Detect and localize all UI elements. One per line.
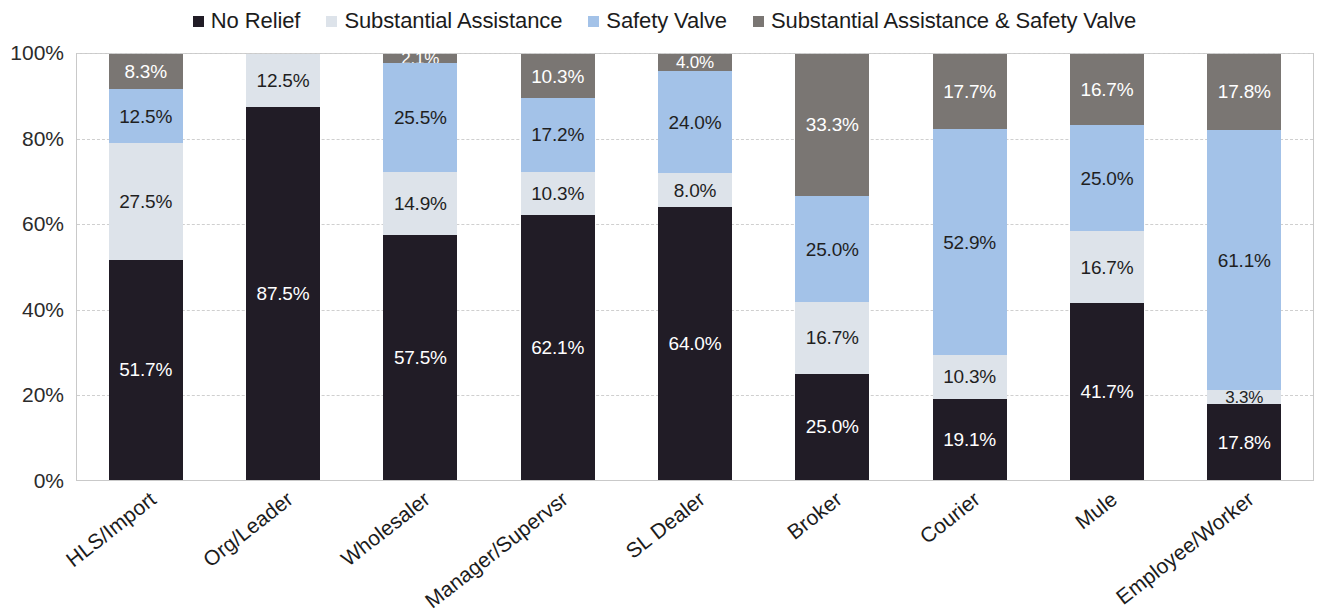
bar-segment[interactable]: 62.1% [521, 215, 595, 480]
square-marker-icon [326, 16, 337, 27]
bar-segment[interactable]: 19.1% [933, 399, 1007, 480]
bar-segment-value-label: 17.8% [1218, 82, 1271, 101]
bar-segment[interactable]: 52.9% [933, 129, 1007, 354]
x-axis-tick: HLS/Import [77, 481, 214, 591]
stacked-bar[interactable]: 17.7%52.9%10.3%19.1% [933, 54, 1007, 480]
y-axis-tick-label: 40% [22, 298, 64, 322]
bar-segment[interactable]: 25.5% [383, 63, 457, 172]
legend-item-label: Substantial Assistance & Safety Valve [771, 10, 1136, 32]
bar-segment[interactable]: 25.0% [1070, 125, 1144, 231]
bar-segment[interactable]: 14.9% [383, 172, 457, 235]
y-axis-tick-label: 0% [34, 469, 64, 493]
bar-segment-value-label: 17.2% [531, 125, 584, 144]
x-axis-tick: Broker [764, 481, 901, 591]
bar-segment[interactable]: 17.8% [1207, 54, 1281, 130]
bar-group: 33.3%25.0%16.7%25.0% [764, 54, 901, 480]
bar-segment-value-label: 19.1% [943, 430, 996, 449]
bar-segment-value-label: 62.1% [531, 338, 584, 357]
x-axis-tick-label: SL Dealer [621, 487, 709, 563]
bar-segment[interactable]: 2.1% [383, 54, 457, 63]
stacked-bar[interactable]: 33.3%25.0%16.7%25.0% [795, 54, 869, 480]
stacked-bar[interactable]: 2.1%25.5%14.9%57.5% [383, 54, 457, 480]
bar-segment[interactable]: 12.5% [246, 54, 320, 107]
square-marker-icon [588, 16, 599, 27]
bar-segment-value-label: 12.5% [257, 71, 310, 90]
bar-segment[interactable]: 12.5% [109, 89, 183, 142]
bar-segment[interactable]: 8.3% [109, 54, 183, 89]
bar-segment-value-label: 17.8% [1218, 433, 1271, 452]
bar-segment[interactable]: 64.0% [658, 207, 732, 480]
bar-segment-value-label: 10.3% [943, 367, 996, 386]
y-axis-tick-label: 60% [22, 212, 64, 236]
bar-segment-value-label: 52.9% [943, 233, 996, 252]
legend-item[interactable]: Substantial Assistance & Safety Valve [753, 10, 1136, 32]
bar-segment-value-label: 64.0% [669, 334, 722, 353]
stacked-bar[interactable]: 16.7%25.0%16.7%41.7% [1070, 54, 1144, 480]
bar-segment-value-label: 10.3% [531, 184, 584, 203]
bar-segment[interactable]: 27.5% [109, 143, 183, 260]
bar-series-container: 8.3%12.5%27.5%51.7%12.5%87.5%2.1%25.5%14… [77, 54, 1313, 480]
bar-segment[interactable]: 16.7% [795, 302, 869, 373]
x-axis-tick-label: Broker [783, 487, 847, 544]
bar-segment-value-label: 17.7% [943, 82, 996, 101]
bar-segment-value-label: 27.5% [119, 192, 172, 211]
stacked-bar[interactable]: 8.3%12.5%27.5%51.7% [109, 54, 183, 480]
bar-segment[interactable]: 16.7% [1070, 231, 1144, 302]
x-axis: HLS/ImportOrg/LeaderWholesalerManager/Su… [77, 481, 1313, 591]
x-axis-tick-label: Mule [1071, 487, 1122, 534]
x-axis-tick: Courier [901, 481, 1038, 591]
stacked-bar[interactable]: 10.3%17.2%10.3%62.1% [521, 54, 595, 480]
bar-group: 12.5%87.5% [214, 54, 351, 480]
stacked-bar[interactable]: 17.8%61.1%3.3%17.8% [1207, 54, 1281, 480]
stacked-bar[interactable]: 4.0%24.0%8.0%64.0% [658, 54, 732, 480]
bar-segment[interactable]: 10.3% [521, 172, 595, 216]
bar-segment-value-label: 8.3% [124, 62, 167, 81]
bar-segment-value-label: 12.5% [119, 107, 172, 126]
bar-segment-value-label: 25.0% [1081, 169, 1134, 188]
bar-group: 2.1%25.5%14.9%57.5% [352, 54, 489, 480]
bar-segment-value-label: 8.0% [674, 181, 717, 200]
bar-segment[interactable]: 41.7% [1070, 303, 1144, 480]
bar-segment[interactable]: 17.2% [521, 98, 595, 171]
y-axis: 0%20%40%60%80%100% [0, 53, 70, 481]
bar-segment[interactable]: 10.3% [933, 355, 1007, 399]
bar-segment-value-label: 14.9% [394, 194, 447, 213]
bar-group: 4.0%24.0%8.0%64.0% [626, 54, 763, 480]
legend-item[interactable]: Safety Valve [588, 10, 727, 32]
bar-group: 10.3%17.2%10.3%62.1% [489, 54, 626, 480]
x-axis-tick: Manager/Supervsr [489, 481, 626, 591]
bar-segment[interactable]: 10.3% [521, 54, 595, 98]
bar-segment[interactable]: 17.8% [1207, 404, 1281, 480]
bar-segment[interactable]: 17.7% [933, 54, 1007, 129]
x-axis-tick-label: Courier [915, 487, 985, 549]
bar-segment[interactable]: 8.0% [658, 173, 732, 207]
x-axis-tick: SL Dealer [626, 481, 763, 591]
bar-segment[interactable]: 57.5% [383, 235, 457, 480]
stacked-bar[interactable]: 12.5%87.5% [246, 54, 320, 480]
bar-segment[interactable]: 61.1% [1207, 130, 1281, 390]
bar-segment-value-label: 4.0% [676, 53, 714, 72]
bar-segment[interactable]: 25.0% [795, 196, 869, 303]
square-marker-icon [753, 16, 764, 27]
legend-item[interactable]: Substantial Assistance [326, 10, 562, 32]
bar-segment[interactable]: 16.7% [1070, 54, 1144, 125]
x-axis-tick-label: Wholesaler [337, 487, 435, 571]
bar-segment[interactable]: 51.7% [109, 260, 183, 480]
bar-segment-value-label: 24.0% [669, 113, 722, 132]
bar-segment[interactable]: 25.0% [795, 374, 869, 481]
bar-segment[interactable]: 87.5% [246, 107, 320, 480]
chart-legend: No ReliefSubstantial AssistanceSafety Va… [0, 6, 1329, 36]
x-axis-tick: Org/Leader [214, 481, 351, 591]
bar-segment[interactable]: 4.0% [658, 54, 732, 71]
bar-segment[interactable]: 33.3% [795, 54, 869, 196]
legend-item[interactable]: No Relief [193, 10, 301, 32]
bar-segment-value-label: 61.1% [1218, 251, 1271, 270]
bar-group: 17.8%61.1%3.3%17.8% [1176, 54, 1313, 480]
x-axis-tick: Employee/Worker [1176, 481, 1313, 591]
y-axis-tick-label: 100% [10, 41, 64, 65]
bar-segment[interactable]: 3.3% [1207, 390, 1281, 404]
footnote-text [108, 596, 1228, 611]
bar-segment[interactable]: 24.0% [658, 71, 732, 173]
y-axis-tick-label: 80% [22, 127, 64, 151]
square-marker-icon [193, 16, 204, 27]
